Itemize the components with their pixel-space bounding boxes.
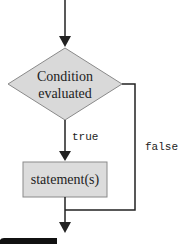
exit-arrow (59, 197, 71, 233)
condition-label-line2: evaluated (38, 86, 92, 101)
flowchart: Condition evaluated true statement(s) fa… (0, 0, 180, 244)
false-label: false (145, 141, 178, 153)
condition-label-line1: Condition (37, 69, 93, 84)
true-branch-arrow: true (59, 120, 98, 161)
condition-node: Condition evaluated (8, 48, 122, 120)
statement-node: statement(s) (23, 162, 107, 197)
entry-arrow (59, 0, 71, 47)
statement-label: statement(s) (31, 172, 100, 188)
true-label: true (72, 131, 98, 143)
bottom-edge-bar (0, 238, 57, 244)
